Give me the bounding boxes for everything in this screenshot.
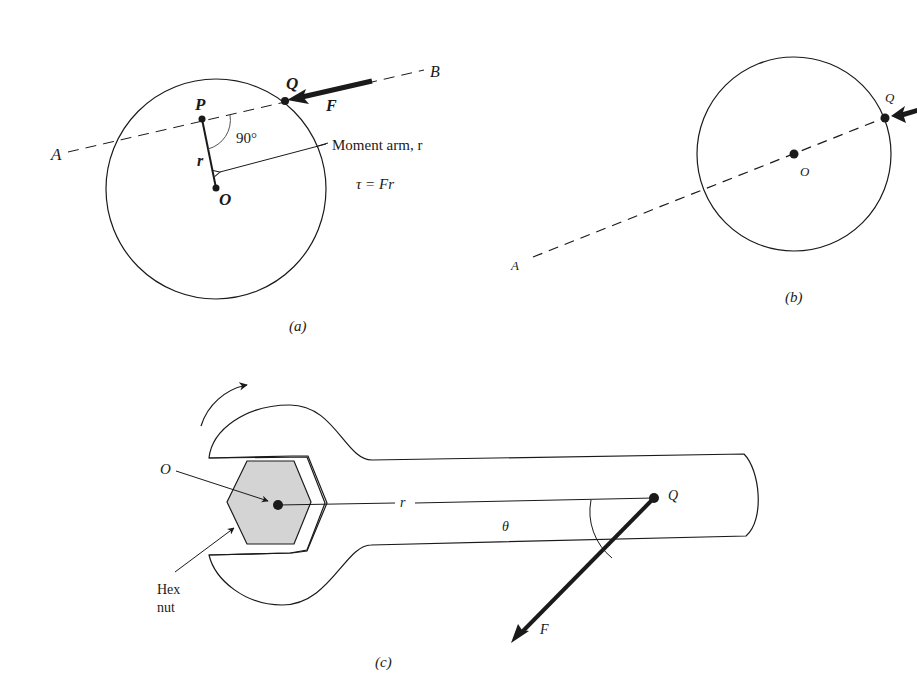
point-p-dot xyxy=(199,116,206,123)
force-arrow-shaft xyxy=(302,81,372,97)
label-c-O: O xyxy=(160,461,171,477)
caption-a: (a) xyxy=(289,318,307,335)
dashed-line-b xyxy=(533,118,884,257)
torque-equation: τ = Fr xyxy=(356,176,394,192)
caption-c: (c) xyxy=(375,654,392,671)
label-a-P: P xyxy=(194,95,206,114)
label-c-theta: θ xyxy=(502,519,509,534)
force-arrow-b xyxy=(891,106,917,123)
point-q-dot xyxy=(281,97,289,105)
label-c-r: r xyxy=(400,495,406,510)
label-a-F: F xyxy=(325,97,337,114)
label-b-Q: Q xyxy=(885,90,895,105)
figure-a: A B P Q F 90° r O Moment arm, r τ = Fr (… xyxy=(50,63,440,335)
point-o-dot-c xyxy=(273,500,283,510)
label-b-A: A xyxy=(510,258,519,273)
moment-arm-leader xyxy=(220,144,326,172)
figure-b: Q O A (b) xyxy=(510,57,917,306)
moment-arm-label: Moment arm, r xyxy=(332,137,422,153)
label-a-Q: Q xyxy=(286,74,298,93)
point-q-dot-b xyxy=(881,114,890,123)
label-hex-line1: Hex xyxy=(157,582,180,597)
right-angle-arc xyxy=(208,115,230,149)
label-a-B: B xyxy=(430,63,440,80)
point-o-dot-b xyxy=(790,150,799,159)
moment-arm-segment xyxy=(202,119,216,188)
label-b-O: O xyxy=(800,164,810,179)
label-c-Q: Q xyxy=(668,488,678,503)
figure-c: O r Q θ F Hex nut (c) xyxy=(157,385,758,671)
label-a-A: A xyxy=(50,145,62,164)
label-a-O: O xyxy=(219,190,231,209)
label-hex-line2: nut xyxy=(157,600,175,615)
label-a-angle: 90° xyxy=(236,130,257,146)
label-a-r: r xyxy=(197,152,204,169)
moment-arm-leader-tail xyxy=(318,143,328,146)
label-c-F: F xyxy=(539,622,549,637)
torque-figure: A B P Q F 90° r O Moment arm, r τ = Fr (… xyxy=(0,0,917,683)
caption-b: (b) xyxy=(785,289,803,306)
hex-nut xyxy=(227,461,311,544)
